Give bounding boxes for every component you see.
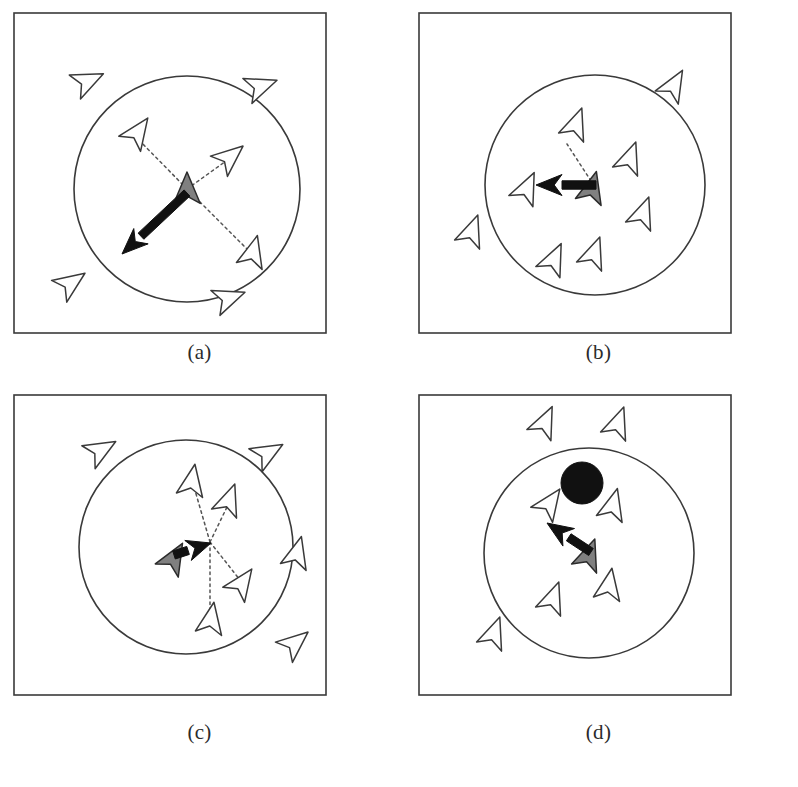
obstacle-circle	[561, 462, 603, 504]
panel-c: (c)	[0, 387, 399, 780]
boids-behaviour-figure: (a) (b) (c) (d)	[0, 0, 798, 787]
panel-d-canvas	[399, 387, 798, 717]
panel-c-canvas	[0, 387, 399, 717]
panel-d: (d)	[399, 387, 798, 780]
panel-a-caption: (a)	[0, 340, 399, 365]
panel-b-caption: (b)	[399, 340, 798, 365]
panel-d-caption: (d)	[399, 720, 798, 745]
panel-b: (b)	[399, 0, 798, 393]
panel-c-caption: (c)	[0, 720, 399, 745]
panel-b-canvas	[399, 0, 798, 345]
panel-a-canvas	[0, 0, 399, 345]
panel-a: (a)	[0, 0, 399, 393]
panel-frame	[419, 13, 731, 333]
panel-frame	[14, 395, 326, 695]
steering-force-arrow-shaft	[562, 181, 596, 189]
